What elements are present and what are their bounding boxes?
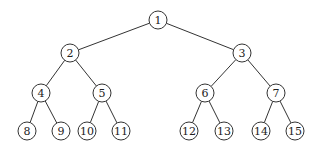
tree-node-6: 6	[196, 84, 214, 102]
node-label: 6	[202, 87, 209, 100]
tree-node-1: 1	[149, 11, 167, 29]
node-label: 14	[254, 125, 268, 138]
edge-3-6	[211, 60, 236, 87]
edge-7-15	[280, 101, 291, 123]
edge-2-4	[46, 60, 64, 85]
edge-4-8	[30, 101, 38, 122]
tree-node-10: 10	[78, 122, 96, 140]
tree-node-8: 8	[18, 122, 36, 140]
node-label: 3	[239, 47, 246, 60]
node-label: 15	[288, 125, 302, 138]
binary-tree-diagram: 123456789101112131415	[0, 0, 318, 152]
tree-edges	[30, 23, 291, 123]
edge-5-11	[106, 101, 117, 123]
tree-node-13: 13	[215, 122, 233, 140]
node-label: 9	[58, 125, 65, 138]
node-label: 7	[273, 87, 280, 100]
edge-7-14	[264, 101, 272, 122]
tree-node-7: 7	[267, 84, 285, 102]
node-label: 2	[67, 47, 74, 60]
edge-4-9	[45, 101, 57, 123]
node-label: 11	[114, 125, 128, 138]
node-label: 4	[38, 87, 45, 100]
tree-node-9: 9	[52, 122, 70, 140]
node-label: 1	[155, 14, 162, 27]
node-label: 8	[24, 125, 31, 138]
tree-node-11: 11	[112, 122, 130, 140]
edge-6-13	[209, 101, 220, 123]
tree-node-4: 4	[32, 84, 50, 102]
tree-node-14: 14	[252, 122, 270, 140]
tree-node-12: 12	[180, 122, 198, 140]
edge-1-2	[78, 23, 149, 50]
node-label: 5	[99, 87, 106, 100]
edge-3-7	[248, 60, 270, 86]
edge-6-12	[192, 101, 201, 122]
edge-2-5	[76, 60, 97, 86]
node-label: 13	[217, 125, 231, 138]
tree-node-5: 5	[93, 84, 111, 102]
edge-5-10	[90, 101, 98, 122]
tree-node-15: 15	[286, 122, 304, 140]
tree-node-2: 2	[61, 44, 79, 62]
node-label: 10	[80, 125, 94, 138]
tree-node-3: 3	[233, 44, 251, 62]
edge-1-3	[166, 23, 233, 49]
node-label: 12	[182, 125, 196, 138]
